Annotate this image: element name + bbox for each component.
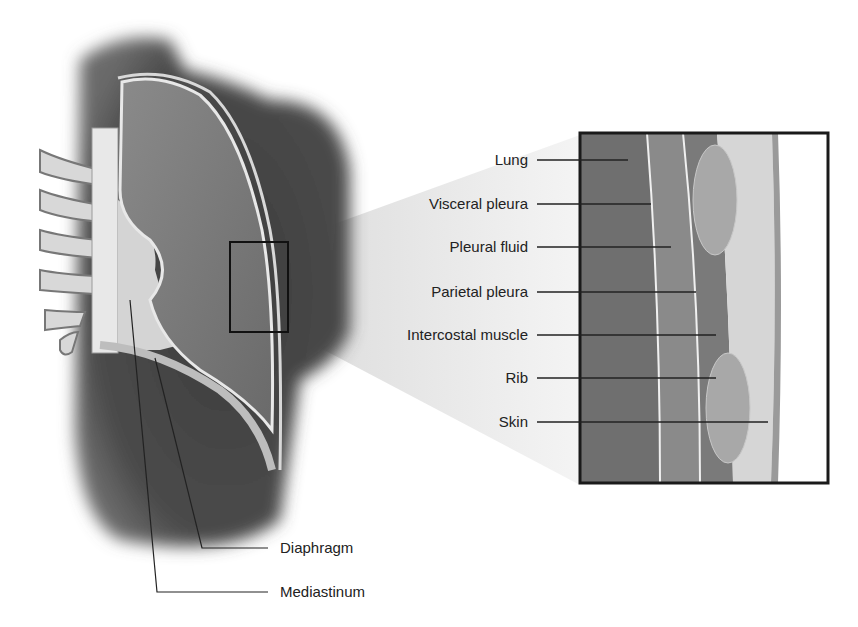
label-diaphragm: Diaphragm [280,539,353,557]
label-rib: Rib [505,369,528,387]
label-lung: Lung [495,151,528,169]
label-parietal-pleura: Parietal pleura [431,283,528,301]
label-skin: Skin [499,413,528,431]
sternum [92,128,118,353]
label-pleural-fluid: Pleural fluid [450,238,528,256]
label-mediastinum: Mediastinum [280,583,365,601]
pleura-anatomy-diagram: Lung Visceral pleura Pleural fluid Parie… [0,0,858,627]
label-visceral-pleura: Visceral pleura [429,195,528,213]
anatomy-illustration [0,0,858,627]
inset-magnified-view [580,133,828,483]
label-intercostal-muscle: Intercostal muscle [407,326,528,344]
